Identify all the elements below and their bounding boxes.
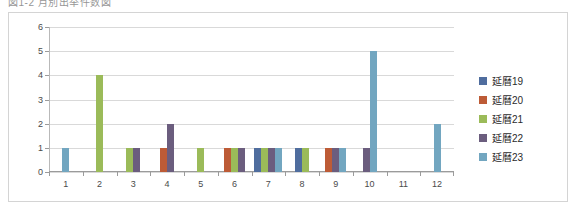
bars <box>363 27 377 172</box>
bar-group: 1 <box>49 27 83 172</box>
x-tick-mark <box>83 172 84 176</box>
legend-item[interactable]: 延曆19 <box>479 73 523 88</box>
chart-frame: 0123456 123456789101112 延曆19延曆20延曆21延曆22… <box>8 12 568 202</box>
bar-group: 3 <box>117 27 151 172</box>
x-axis-tick-label: 10 <box>353 179 387 189</box>
legend-swatch-icon <box>479 115 487 123</box>
x-axis-tick-label: 3 <box>117 179 151 189</box>
bars <box>295 27 309 172</box>
bar[interactable] <box>268 148 275 172</box>
bar-group: 7 <box>252 27 286 172</box>
x-axis-tick-label: 7 <box>252 179 286 189</box>
bar[interactable] <box>231 148 238 172</box>
x-axis-tick-label: 2 <box>83 179 117 189</box>
bar[interactable] <box>197 148 204 172</box>
legend-item[interactable]: 延曆21 <box>479 111 523 126</box>
legend-label: 延曆23 <box>492 149 523 164</box>
legend-label: 延曆22 <box>492 130 523 145</box>
bar-group: 5 <box>184 27 218 172</box>
bars <box>434 27 441 172</box>
bars <box>96 27 103 172</box>
bar[interactable] <box>370 51 377 172</box>
x-tick-mark <box>150 172 151 176</box>
x-tick-mark <box>285 172 286 176</box>
x-tick-mark <box>218 172 219 176</box>
chart-screenshot: 図1-2 月別出举件数図 0123456 123456789101112 延曆1… <box>0 0 580 211</box>
legend-swatch-icon <box>479 77 487 85</box>
y-axis-tick-label: 3 <box>38 95 43 105</box>
plot-area: 0123456 123456789101112 <box>49 27 454 172</box>
bar[interactable] <box>160 148 167 172</box>
bar[interactable] <box>96 75 103 172</box>
legend-swatch-icon <box>479 134 487 142</box>
figure-caption: 図1-2 月別出举件数図 <box>8 0 111 9</box>
bar[interactable] <box>302 148 309 172</box>
bar-categories: 123456789101112 <box>49 27 454 172</box>
y-axis-tick-label: 0 <box>38 167 43 177</box>
bar[interactable] <box>261 148 268 172</box>
legend-label: 延曆20 <box>492 92 523 107</box>
y-axis-tick-label: 4 <box>38 70 43 80</box>
bar-group: 2 <box>83 27 117 172</box>
x-axis-tick-label: 4 <box>150 179 184 189</box>
legend-label: 延曆21 <box>492 111 523 126</box>
legend-item[interactable]: 延曆22 <box>479 130 523 145</box>
x-axis-tick-label: 1 <box>49 179 83 189</box>
y-axis-tick-label: 2 <box>38 119 43 129</box>
y-axis-tick-label: 5 <box>38 46 43 56</box>
bar[interactable] <box>339 148 346 172</box>
x-axis-tick-label: 5 <box>184 179 218 189</box>
bars <box>197 27 204 172</box>
bar[interactable] <box>325 148 332 172</box>
x-tick-mark <box>353 172 354 176</box>
x-axis-tick-label: 6 <box>218 179 252 189</box>
x-axis-tick-label: 8 <box>285 179 319 189</box>
bar-group: 11 <box>387 27 421 172</box>
x-tick-mark <box>252 172 253 176</box>
bar[interactable] <box>332 148 339 172</box>
bars <box>254 27 282 172</box>
x-axis-tick-label: 9 <box>319 179 353 189</box>
bar-group: 12 <box>420 27 454 172</box>
bar[interactable] <box>167 124 174 172</box>
bar[interactable] <box>363 148 370 172</box>
bars <box>62 27 69 172</box>
bar[interactable] <box>275 148 282 172</box>
bar[interactable] <box>126 148 133 172</box>
bar-group: 6 <box>218 27 252 172</box>
bar-group: 10 <box>353 27 387 172</box>
bars <box>126 27 140 172</box>
bar[interactable] <box>133 148 140 172</box>
bar-group: 4 <box>150 27 184 172</box>
bar[interactable] <box>62 148 69 172</box>
legend-swatch-icon <box>479 153 487 161</box>
bars <box>224 27 245 172</box>
x-tick-mark <box>420 172 421 176</box>
x-tick-mark <box>117 172 118 176</box>
x-tick-mark <box>453 172 454 176</box>
legend-swatch-icon <box>479 96 487 104</box>
y-axis-tick-label: 6 <box>38 22 43 32</box>
y-axis-tick-label: 1 <box>38 143 43 153</box>
bar-group: 9 <box>319 27 353 172</box>
legend-item[interactable]: 延曆23 <box>479 149 523 164</box>
legend-label: 延曆19 <box>492 73 523 88</box>
bar[interactable] <box>224 148 231 172</box>
x-tick-mark <box>319 172 320 176</box>
x-axis-tick-label: 12 <box>420 179 454 189</box>
bars <box>325 27 346 172</box>
x-tick-mark <box>387 172 388 176</box>
bar[interactable] <box>238 148 245 172</box>
x-tick-mark <box>184 172 185 176</box>
x-tick-mark <box>49 172 50 176</box>
bar[interactable] <box>434 124 441 172</box>
bar-group: 8 <box>285 27 319 172</box>
chart-legend: 延曆19延曆20延曆21延曆22延曆23 <box>479 73 523 164</box>
bars <box>160 27 174 172</box>
bar[interactable] <box>254 148 261 172</box>
bar[interactable] <box>295 148 302 172</box>
x-axis-tick-label: 11 <box>387 179 421 189</box>
legend-item[interactable]: 延曆20 <box>479 92 523 107</box>
